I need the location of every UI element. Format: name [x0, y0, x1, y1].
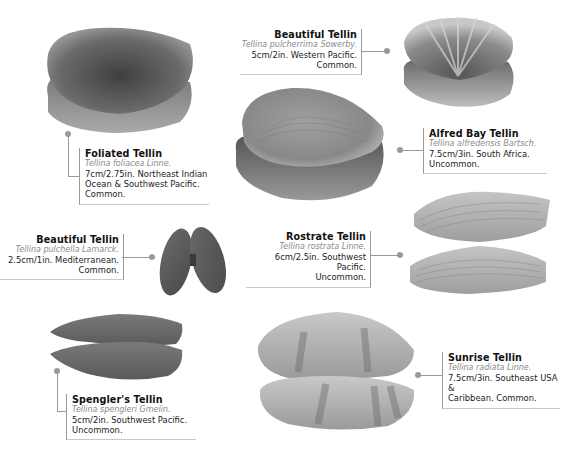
shell-latin-name: Tellina pulcherrima Sowerby. [240, 40, 357, 50]
beautiful-tellin-pulchella-shell-image [156, 222, 232, 300]
shell-description-line: Caribbean. Common. [448, 393, 560, 403]
shell-latin-name: Tellina alfredensis Bartsch. [429, 139, 547, 149]
shell-name: Alfred Bay Tellin [429, 128, 547, 139]
shell-description-line: Common. [240, 60, 357, 70]
rostrate-tellin-connector [370, 255, 400, 256]
foliated-tellin-connector [68, 134, 69, 176]
shell-description-line: Uncommon. [246, 272, 366, 282]
beautiful-tellin-pulcherrima-caption: Beautiful Tellin Tellina pulcherrima Sow… [240, 29, 362, 75]
shell-description-line: 6cm/2.5in. Southwest Pacific. [246, 252, 366, 272]
shell-description-line: 2.5cm/1in. Mediterranean. [0, 255, 119, 265]
beautiful-tellin-pulchella-pointer-dot [149, 254, 155, 260]
shell-description-line: Ocean & Southwest Pacific. [85, 179, 209, 189]
beautiful-tellin-pulcherrima-pointer-dot [384, 48, 390, 54]
rostrate-tellin-caption: Rostrate Tellin Tellina rostrata Linne. … [246, 231, 371, 288]
shell-description-line: 5cm/2in. Southwest Pacific. [72, 415, 196, 425]
sunrise-tellin-caption: Sunrise Tellin Tellina radiata Linne. 7.… [442, 352, 560, 409]
spenglers-tellin-connector [57, 371, 58, 411]
beautiful-tellin-pulcherrima-shell-image [400, 14, 522, 110]
beautiful-tellin-pulchella-caption: Beautiful Tellin Tellina pulchella Lamar… [0, 234, 124, 280]
shell-description-line: 7cm/2.75in. Northeast Indian [85, 169, 209, 179]
foliated-tellin-shell-image [40, 24, 200, 136]
shell-name: Beautiful Tellin [240, 29, 357, 40]
shell-latin-name: Tellina spengleri Gmelin. [72, 405, 196, 415]
shell-latin-name: Tellina foliacea Linne. [85, 159, 209, 169]
shell-description-line: Uncommon. [429, 159, 547, 169]
beautiful-tellin-pulchella-connector [122, 257, 152, 258]
alfred-bay-tellin-shell-image [232, 82, 392, 207]
shell-name: Sunrise Tellin [448, 352, 560, 363]
shell-name: Spengler's Tellin [72, 394, 196, 405]
shell-name: Foliated Tellin [85, 148, 209, 159]
shell-latin-name: Tellina pulchella Lamarck. [0, 245, 119, 255]
shell-name: Rostrate Tellin [246, 231, 366, 242]
sunrise-tellin-shell-image [248, 306, 418, 434]
spenglers-tellin-caption: Spengler's Tellin Tellina spengleri Gmel… [66, 394, 196, 440]
alfred-bay-tellin-caption: Alfred Bay Tellin Tellina alfredensis Ba… [423, 128, 547, 174]
shell-latin-name: Tellina rostrata Linne. [246, 242, 366, 252]
shell-description-line: 7.5cm/3in. Southeast USA & [448, 373, 560, 393]
rostrate-tellin-pointer-dot [397, 252, 403, 258]
shell-description-line: Common. [0, 265, 119, 275]
shell-latin-name: Tellina radiata Linne. [448, 363, 560, 373]
spenglers-tellin-shell-image [48, 312, 186, 384]
shell-name: Beautiful Tellin [0, 234, 119, 245]
rostrate-tellin-shell-image [400, 186, 552, 306]
foliated-tellin-caption: Foliated Tellin Tellina foliacea Linne. … [79, 148, 209, 205]
sunrise-tellin-connector [418, 375, 442, 376]
shell-description-line: 5cm/2in. Western Pacific. [240, 50, 357, 60]
shell-description-line: Common. [85, 189, 209, 199]
alfred-bay-tellin-connector [400, 150, 424, 151]
shell-description-line: 7.5cm/3in. South Africa. [429, 149, 547, 159]
shell-description-line: Uncommon. [72, 425, 196, 435]
